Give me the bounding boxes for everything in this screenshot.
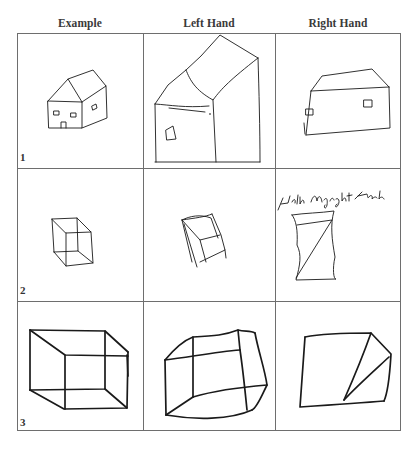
cube-example-drawing xyxy=(52,218,93,266)
house-example-drawing xyxy=(48,70,107,128)
box-right-hand-drawing xyxy=(300,333,391,407)
sketches-layer xyxy=(0,0,419,451)
house-left-hand-drawing xyxy=(155,35,260,162)
house-right-hand-drawing xyxy=(304,69,390,135)
cube-right-hand-drawing xyxy=(278,191,384,280)
cube-left-hand-drawing xyxy=(182,214,226,267)
box-left-hand-drawing xyxy=(165,330,267,418)
box-example-drawing xyxy=(30,330,128,409)
